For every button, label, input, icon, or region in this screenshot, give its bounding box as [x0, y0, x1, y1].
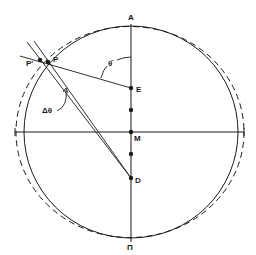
point-unlabeled-1 — [129, 108, 133, 112]
label-delta-theta: Δθ — [42, 106, 52, 115]
label-A: A — [128, 13, 134, 22]
label-P: P — [53, 55, 59, 64]
label-M: M — [134, 134, 141, 143]
point-D — [129, 176, 133, 180]
point-P — [46, 60, 50, 64]
delta-theta-arc — [57, 90, 66, 111]
theta-bar-arc-upper — [117, 57, 131, 60]
point-E — [129, 86, 133, 90]
label-D: D — [135, 176, 141, 185]
theta-bar-arc — [101, 66, 107, 78]
label-P-prime: P' — [26, 59, 33, 68]
point-unlabeled-2 — [129, 152, 133, 156]
label-E: E — [136, 85, 142, 94]
geometry-diagram: A E M D Π P P' θ̄ Δθ — [0, 0, 256, 255]
label-theta-bar: θ̄ — [108, 59, 114, 68]
point-P-prime — [38, 58, 42, 62]
diagram-canvas: A E M D Π P P' θ̄ Δθ — [0, 0, 256, 255]
line-P-to-E — [20, 56, 131, 88]
point-M — [129, 130, 133, 134]
label-Pi: Π — [127, 243, 133, 252]
